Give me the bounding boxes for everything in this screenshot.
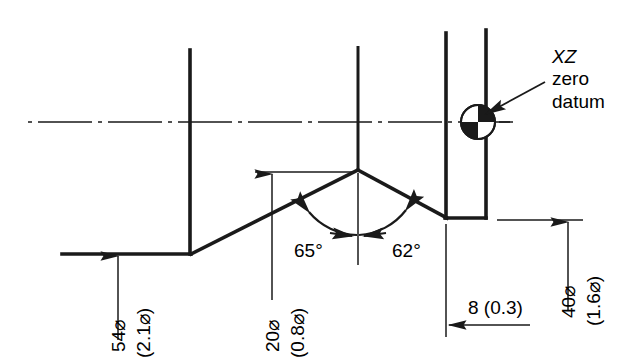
dimension-label-54-dia: 54⌀	[108, 320, 130, 352]
dimension-label-40-dia-alt: (1.6⌀)	[583, 276, 605, 326]
outline-left-taper	[191, 170, 358, 254]
technical-drawing: XZ zero datum 54⌀ (2.1⌀) 20⌀ (0.8⌀) 40⌀ …	[0, 0, 635, 364]
dimension-8-leader	[446, 224, 530, 337]
outline-right-taper	[358, 170, 447, 218]
dimension-label-8: 8 (0.3)	[468, 297, 523, 319]
component-outline	[62, 30, 486, 254]
dimension-20-leader	[255, 172, 352, 300]
datum-note-line-1: XZ	[552, 46, 576, 68]
dimension-label-40-dia: 40⌀	[558, 286, 580, 318]
angle-label-62: 62°	[392, 240, 421, 262]
dimension-label-20-dia: 20⌀	[262, 320, 284, 352]
datum-note: XZ zero datum	[552, 46, 605, 113]
datum-note-line-3: datum	[552, 91, 605, 113]
datum-note-leader	[486, 82, 545, 114]
dimension-label-20-dia-alt: (0.8⌀)	[287, 308, 309, 358]
drawing-canvas	[0, 0, 635, 364]
xz-zero-datum-symbol	[461, 105, 495, 139]
datum-note-line-2: zero	[552, 68, 589, 90]
angle-label-65: 65°	[294, 240, 323, 262]
dimension-label-54-dia-alt: (2.1⌀)	[133, 308, 155, 358]
